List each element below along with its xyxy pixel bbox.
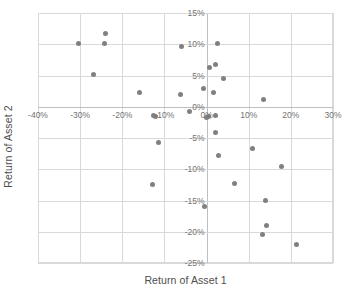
x-tick-label: -30% bbox=[70, 110, 90, 120]
y-tick-label: -5% bbox=[177, 133, 205, 143]
y-tick-label: 10% bbox=[177, 39, 205, 49]
y-axis-title: Return of Asset 2 bbox=[0, 0, 16, 293]
x-axis-title: Return of Asset 1 bbox=[38, 272, 333, 288]
scatter-point bbox=[294, 242, 299, 247]
scatter-point bbox=[91, 72, 96, 77]
y-tick-label: 0% bbox=[177, 102, 205, 112]
y-tick-label: -10% bbox=[177, 164, 205, 174]
y-tick-label: 15% bbox=[177, 8, 205, 18]
x-tick-label: -40% bbox=[28, 110, 48, 120]
scatter-point bbox=[213, 62, 218, 67]
scatter-point bbox=[102, 41, 107, 46]
x-tick-label: 30% bbox=[324, 110, 341, 120]
gridline-vertical bbox=[333, 13, 334, 263]
x-tick-label: -20% bbox=[112, 110, 132, 120]
scatter-chart: Return of Asset 2 -40%-30%-20%-10%0%10%2… bbox=[0, 0, 348, 293]
scatter-point bbox=[211, 90, 216, 95]
y-tick-label: -20% bbox=[177, 227, 205, 237]
x-tick-label: 10% bbox=[240, 110, 257, 120]
x-tick-label: 20% bbox=[282, 110, 299, 120]
x-tick-label: -10% bbox=[155, 110, 175, 120]
scatter-point bbox=[264, 223, 269, 228]
scatter-point bbox=[201, 86, 206, 91]
scatter-point bbox=[216, 153, 221, 158]
y-tick-label: -25% bbox=[177, 258, 205, 268]
scatter-point bbox=[232, 181, 237, 186]
y-tick-label: -15% bbox=[177, 196, 205, 206]
scatter-point bbox=[156, 140, 161, 145]
y-tick-label: 5% bbox=[177, 71, 205, 81]
